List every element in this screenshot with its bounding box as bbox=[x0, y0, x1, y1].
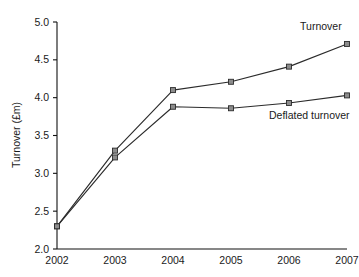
data-point-marker bbox=[113, 148, 118, 153]
y-tick-label: 4.5 bbox=[34, 53, 49, 65]
x-tick-label: 2002 bbox=[45, 254, 69, 266]
data-point-marker bbox=[113, 155, 118, 160]
x-tick-label: 2004 bbox=[161, 254, 185, 266]
y-tick-label: 3.0 bbox=[34, 167, 49, 179]
y-tick-label: 5.0 bbox=[34, 16, 49, 28]
chart-container: 2.02.53.03.54.04.55.0 200220032004200520… bbox=[0, 0, 359, 277]
y-tick-label: 2.0 bbox=[34, 243, 49, 255]
x-tick-label: 2007 bbox=[335, 254, 359, 266]
data-point-marker bbox=[345, 93, 350, 98]
data-point-marker bbox=[171, 104, 176, 109]
data-point-marker bbox=[171, 88, 176, 93]
y-tick-label: 4.0 bbox=[34, 91, 49, 103]
y-axis-title: Turnover (£m) bbox=[10, 102, 22, 168]
y-tick-label: 3.5 bbox=[34, 129, 49, 141]
series-annotation-label: Deflated turnover bbox=[269, 109, 350, 121]
x-tick-label: 2005 bbox=[219, 254, 243, 266]
data-point-marker bbox=[345, 41, 350, 46]
data-point-marker bbox=[287, 64, 292, 69]
chart-background bbox=[0, 0, 359, 277]
data-point-marker bbox=[287, 100, 292, 105]
y-tick-label: 2.5 bbox=[34, 205, 49, 217]
data-point-marker bbox=[55, 224, 60, 229]
x-tick-label: 2006 bbox=[277, 254, 301, 266]
line-chart: 2.02.53.03.54.04.55.0 200220032004200520… bbox=[0, 0, 359, 277]
data-point-marker bbox=[229, 79, 234, 84]
series-annotation-label: Turnover bbox=[300, 20, 342, 32]
data-point-marker bbox=[229, 106, 234, 111]
x-tick-label: 2003 bbox=[103, 254, 127, 266]
